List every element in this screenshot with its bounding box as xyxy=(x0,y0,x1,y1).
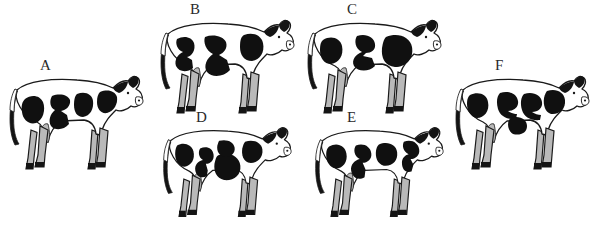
cow-hoof-3 xyxy=(534,163,541,169)
cow-eye xyxy=(425,36,427,38)
cow-tail-upper xyxy=(456,89,463,112)
cow-nostril xyxy=(438,150,440,152)
cow-hoof-1 xyxy=(472,163,479,169)
cow-eye xyxy=(276,142,278,144)
cow-spot-shoulder-blob xyxy=(382,35,412,67)
cow-hoof-4 xyxy=(96,162,105,167)
cow-hoof-3 xyxy=(390,211,397,217)
cow-illustration-d[interactable] xyxy=(153,112,298,227)
cow-hoof-4 xyxy=(394,106,403,111)
cow-illustration-e[interactable] xyxy=(305,112,450,227)
cow-body-group-d xyxy=(164,128,291,217)
cow-hoof-2 xyxy=(333,106,342,111)
cow-illustration-a[interactable] xyxy=(2,60,147,180)
cow-tail-upper xyxy=(161,33,168,56)
cow-hoof-4 xyxy=(247,106,256,111)
cow-hoof-4 xyxy=(542,162,551,167)
cow-illustration-b[interactable] xyxy=(153,4,298,124)
cow-spot-center-triangle xyxy=(376,143,397,166)
cow-body-group-e xyxy=(316,128,443,217)
cow-illustration-f[interactable] xyxy=(448,60,593,180)
cow-hoof-3 xyxy=(238,211,245,217)
cow-eye xyxy=(127,92,129,94)
cow-hoof-4 xyxy=(398,210,407,215)
cow-label-e: E xyxy=(347,110,357,125)
cow-label-c: C xyxy=(347,2,358,17)
cow-nostril xyxy=(436,43,438,45)
cow-tail-upper xyxy=(164,140,171,162)
cow-body-group-f xyxy=(456,76,589,169)
cow-body-group-b xyxy=(161,20,294,113)
cow-body-group-c xyxy=(308,20,441,113)
cow-eye xyxy=(428,142,430,144)
cow-hoof-2 xyxy=(481,162,490,167)
cow-spot-shoulder-hook xyxy=(402,141,419,172)
cow-hoof-2 xyxy=(35,162,44,167)
cow-body-group-a xyxy=(10,76,143,169)
cow-label-d: D xyxy=(196,110,207,125)
cow-hoof-1 xyxy=(331,211,338,217)
cow-hoof-1 xyxy=(179,211,186,217)
cow-hoof-4 xyxy=(246,210,255,215)
cow-spot-rear-oval xyxy=(326,144,346,168)
cow-nostril xyxy=(138,99,140,101)
cow-hoof-3 xyxy=(88,163,95,169)
cow-hoof-2 xyxy=(186,106,195,111)
cow-nostril xyxy=(584,99,586,101)
cow-label-a: A xyxy=(40,58,51,73)
cow-nostril xyxy=(289,43,291,45)
cow-eye xyxy=(573,92,575,94)
cow-tail-upper xyxy=(316,140,323,162)
cow-hoof-2 xyxy=(340,210,349,215)
cow-tail-upper xyxy=(10,89,17,112)
cow-eye xyxy=(278,36,280,38)
cow-label-f: F xyxy=(495,58,504,73)
cow-nostril xyxy=(286,150,288,152)
cow-label-b: B xyxy=(190,2,201,17)
cow-hoof-2 xyxy=(188,210,197,215)
cow-hoof-1 xyxy=(26,163,33,169)
cow-illustration-c[interactable] xyxy=(300,4,445,124)
cow-tail-upper xyxy=(308,33,315,56)
